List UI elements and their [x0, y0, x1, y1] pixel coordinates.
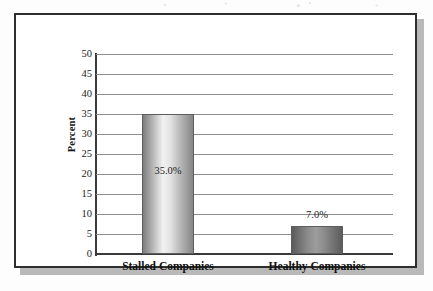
chart-figure-frame: Percent 50 45 40 35 30 25 20 15 10 5 0 — [14, 13, 417, 268]
y-axis-tick-labels: 50 45 40 35 30 25 20 15 10 5 0 — [68, 54, 92, 254]
y-tick-label: 25 — [82, 149, 93, 160]
scan-artifact-speckle — [130, 1, 420, 9]
scanned-page: Percent 50 45 40 35 30 25 20 15 10 5 0 — [0, 0, 433, 291]
gridline — [96, 54, 393, 55]
gridline — [96, 94, 393, 95]
y-tick-label: 5 — [87, 229, 92, 240]
bar-value-label-stalled-companies: 35.0% — [154, 166, 181, 177]
gridline — [96, 194, 393, 195]
x-axis-category-label-stalled-companies: Stalled Companies — [122, 261, 214, 273]
y-tick-label: 45 — [82, 69, 93, 80]
y-tick-label: 40 — [82, 89, 93, 100]
gridline — [96, 234, 393, 235]
x-axis-baseline — [96, 253, 393, 255]
y-tick-label: 30 — [82, 129, 93, 140]
plot-area: 35.0% 7.0% — [96, 54, 393, 254]
y-tick-label: 0 — [87, 249, 92, 260]
y-tick-label: 10 — [82, 209, 93, 220]
gridline — [96, 154, 393, 155]
y-tick-label: 20 — [82, 169, 93, 180]
gridline — [96, 114, 393, 115]
x-axis-category-label-healthy-companies: Healthy Companies — [269, 261, 366, 273]
y-tick-label: 35 — [82, 109, 93, 120]
bar-healthy-companies[interactable] — [291, 226, 343, 254]
gridline — [96, 174, 393, 175]
bar-value-label-healthy-companies: 7.0% — [306, 210, 328, 221]
y-tick-label: 15 — [82, 189, 93, 200]
gridline — [96, 214, 393, 215]
gridline — [96, 74, 393, 75]
gridline — [96, 134, 393, 135]
bar-stalled-companies[interactable] — [142, 114, 194, 254]
y-tick-label: 50 — [82, 49, 93, 60]
